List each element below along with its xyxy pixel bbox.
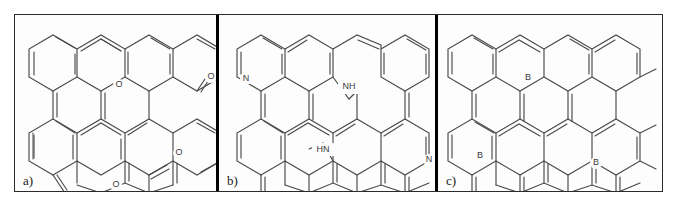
atom-label-nitrogen: N [426, 154, 433, 164]
panel-label-b: b) [227, 174, 238, 187]
atom-label-oxygen: O [207, 71, 214, 81]
structure-b-drawing: N NH HN N [219, 15, 438, 191]
atom-label-boron: B [525, 72, 531, 82]
panel-c: B B B c) [438, 15, 661, 191]
atom-label-oxygen: O [115, 79, 122, 89]
structure-c-drawing: B B B [438, 15, 661, 191]
panel-label-c: c) [446, 174, 456, 187]
atom-label-oxygen: O [112, 179, 119, 189]
atom-label-nitrogen: N [243, 73, 250, 83]
panel-row: O O O O a) [14, 14, 663, 192]
atom-label-h-nitrogen: HN [317, 144, 330, 154]
atom-label-boron: B [477, 150, 483, 160]
panel-label-a: a) [23, 174, 33, 187]
figure-container: O O O O a) [0, 0, 677, 206]
atom-label-nitrogen-h: NH [343, 81, 356, 91]
atom-label-boron: B [593, 157, 599, 167]
panel-a: O O O O a) [15, 15, 219, 191]
structure-a-drawing: O O O O [15, 15, 219, 191]
atom-label-oxygen: O [175, 147, 182, 157]
panel-b: N NH HN N b) [219, 15, 438, 191]
